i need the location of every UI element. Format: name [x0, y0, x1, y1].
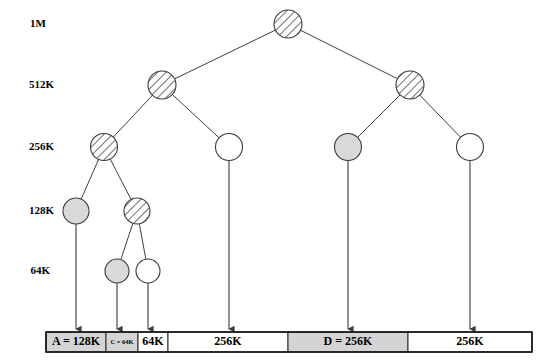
memory-segment-label-0: A = 128K	[52, 334, 101, 348]
tree-edge-n512-l-to-n256-1	[113, 95, 152, 137]
memory-segment-label-2: 64K	[142, 334, 164, 348]
memory-segment-label-5: 256K	[456, 334, 484, 348]
memory-segment-label-4: D = 256K	[324, 334, 374, 348]
memory-bar: A = 128KC = 64K64K256KD = 256K256K	[46, 332, 532, 352]
level-label-64k: 64K	[30, 264, 50, 276]
tree-node-group	[63, 10, 484, 283]
level-label-256k: 256K	[29, 140, 55, 152]
tree-node-n128-1-allocated	[63, 198, 89, 224]
tree-node-n256-1-split	[91, 134, 118, 161]
drop-arrow-group	[76, 161, 470, 329]
level-label-512k: 512K	[29, 78, 55, 90]
diagram-canvas: 1M512K256K128K64K A = 128KC = 64K64K256K…	[0, 0, 542, 364]
tree-edge-root-to-n512-l	[175, 30, 276, 79]
tree-edge-group	[81, 30, 460, 260]
tree-node-n64-2-free	[136, 259, 160, 283]
tree-edge-n256-1-to-n128-2	[110, 159, 131, 199]
tree-node-n512-l-split	[148, 71, 176, 99]
level-label-1m: 1M	[30, 17, 47, 29]
tree-node-n64-1-allocated	[105, 259, 129, 283]
memory-segment-label-1: C = 64K	[110, 338, 133, 345]
tree-edge-n128-2-to-n64-1	[121, 223, 133, 259]
tree-node-n256-3-allocated	[335, 134, 362, 161]
tree-edge-n512-l-to-n256-2	[172, 95, 219, 138]
tree-node-n128-2-split	[124, 198, 150, 224]
tree-node-n512-r-split	[396, 71, 424, 99]
level-label-128k: 128K	[29, 204, 55, 216]
buddy-system-tree-diagram: 1M512K256K128K64K A = 128KC = 64K64K256K…	[0, 0, 542, 364]
tree-node-n256-2-free	[216, 134, 243, 161]
tree-edge-n512-r-to-n256-4	[420, 95, 461, 137]
tree-edge-n256-1-to-n128-1	[81, 159, 98, 199]
tree-edge-n512-r-to-n256-3	[358, 95, 401, 138]
level-label-group: 1M512K256K128K64K	[29, 17, 55, 276]
tree-edge-root-to-n512-r	[301, 30, 398, 78]
tree-node-n256-4-free	[457, 134, 484, 161]
memory-segment-label-3: 256K	[214, 334, 242, 348]
tree-node-root-split	[274, 10, 302, 38]
tree-edge-n128-2-to-n64-2	[139, 224, 145, 259]
